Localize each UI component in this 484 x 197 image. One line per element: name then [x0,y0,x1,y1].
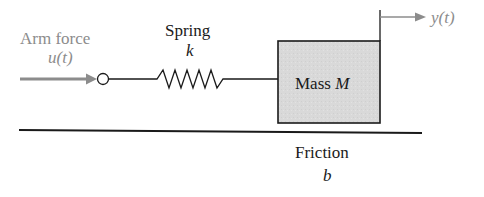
friction-label: Friction [295,143,349,162]
mass-spring-diagram: Arm force u(t) Spring k Mass M y(t) Fric… [0,0,484,197]
mass-symbol: M [334,74,350,93]
output-symbol: y(t) [429,8,455,27]
ground-surface [19,130,422,133]
spring-constant-symbol: k [186,41,194,60]
mass-label: Mass M [295,74,350,93]
spring-label: Spring [165,21,211,40]
input-symbol: u(t) [48,48,73,67]
output-displacement-arrow [380,10,426,41]
spring [109,70,279,88]
input-node [98,74,109,85]
arm-force-arrow [20,74,97,85]
arm-force-label: Arm force [20,29,90,48]
friction-symbol: b [323,166,332,185]
